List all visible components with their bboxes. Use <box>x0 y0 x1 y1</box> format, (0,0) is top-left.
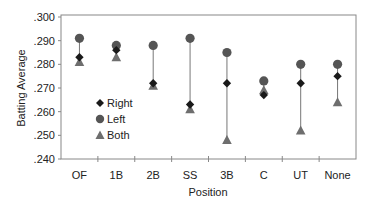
diamond-marker <box>75 53 83 61</box>
diamond-marker <box>333 72 341 80</box>
x-tick-label: 3B <box>220 169 233 181</box>
legend-label-right: Right <box>107 97 133 109</box>
circle-marker <box>75 34 84 43</box>
x-axis-ticks: OF1B2BSS3BCUTNone <box>72 156 351 181</box>
diamond-icon <box>96 99 104 107</box>
circle-marker <box>149 41 158 50</box>
data-points <box>75 34 343 144</box>
triangle-marker <box>333 97 343 106</box>
y-tick-label: .240 <box>34 153 55 165</box>
y-tick-label: .270 <box>34 82 55 94</box>
x-tick-label: 2B <box>146 169 159 181</box>
circle-marker <box>259 76 268 85</box>
y-tick-label: .250 <box>34 129 55 141</box>
triangle-marker <box>296 126 306 135</box>
y-tick-label: .260 <box>34 106 55 118</box>
y-tick-label: .300 <box>34 11 55 23</box>
x-tick-label: C <box>260 169 268 181</box>
plot-frame <box>61 15 356 159</box>
diamond-marker <box>223 79 231 87</box>
x-axis-label: Position <box>188 186 227 198</box>
circle-icon <box>96 115 104 123</box>
x-tick-label: None <box>324 169 350 181</box>
legend-label-both: Both <box>107 129 130 141</box>
circle-marker <box>333 60 342 69</box>
triangle-marker <box>222 135 232 144</box>
y-tick-label: .290 <box>34 35 55 47</box>
y-axis-label: Batting Average <box>15 49 27 126</box>
dot-range-chart: .300.290.280.270.260.250.240 OF1B2BSS3BC… <box>0 0 373 205</box>
diamond-marker <box>186 100 194 108</box>
circle-marker <box>222 48 231 57</box>
legend: Right Left Both <box>96 97 133 141</box>
legend-label-left: Left <box>107 113 125 125</box>
diamond-marker <box>296 79 304 87</box>
circle-marker <box>296 60 305 69</box>
x-tick-label: 1B <box>110 169 123 181</box>
circle-marker <box>185 34 194 43</box>
x-tick-label: OF <box>72 169 88 181</box>
triangle-icon <box>96 131 105 140</box>
x-tick-label: SS <box>183 169 198 181</box>
y-axis-ticks: .300.290.280.270.260.250.240 <box>34 11 61 165</box>
x-tick-label: UT <box>293 169 308 181</box>
y-tick-label: .280 <box>34 58 55 70</box>
